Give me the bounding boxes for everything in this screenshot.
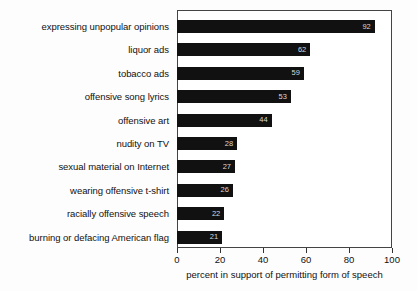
bar: 28: [177, 137, 237, 150]
bars-layer: 92625953442827262221: [177, 10, 392, 248]
x-tick-label: 40: [258, 254, 269, 265]
bar-value-label: 22: [212, 210, 220, 218]
category-label: tobacco ads: [0, 68, 169, 79]
x-tick-label: 60: [301, 254, 312, 265]
x-tick-label: 0: [174, 254, 179, 265]
x-tick-mark: [220, 248, 221, 253]
bar: 27: [177, 160, 235, 173]
bar-value-label: 59: [292, 69, 300, 77]
x-tick-mark: [263, 248, 264, 253]
x-tick-mark: [392, 248, 393, 253]
x-tick-mark: [306, 248, 307, 253]
bar-value-label: 53: [279, 93, 287, 101]
bar-value-label: 28: [225, 140, 233, 148]
bar-value-label: 21: [210, 233, 218, 241]
x-tick-label: 20: [215, 254, 226, 265]
x-tick-label: 80: [344, 254, 355, 265]
category-label: offensive art: [0, 115, 169, 126]
category-label: burning or defacing American flag: [0, 232, 169, 243]
category-axis-labels: expressing unpopular opinionsliquor adst…: [0, 10, 173, 248]
bar: 53: [177, 90, 291, 103]
bar: 26: [177, 184, 233, 197]
bar-value-label: 44: [259, 116, 267, 124]
bar-chart: expressing unpopular opinionsliquor adst…: [0, 0, 417, 291]
category-label: offensive song lyrics: [0, 91, 169, 102]
x-tick-mark: [177, 248, 178, 253]
category-label: expressing unpopular opinions: [0, 21, 169, 32]
bar-value-label: 27: [223, 163, 231, 171]
category-label: liquor ads: [0, 44, 169, 55]
bar-value-label: 92: [362, 23, 370, 31]
x-tick-mark: [349, 248, 350, 253]
bar: 59: [177, 67, 304, 80]
x-axis: 020406080100: [177, 248, 392, 270]
bar: 22: [177, 207, 224, 220]
category-label: nudity on TV: [0, 138, 169, 149]
category-label: wearing offensive t-shirt: [0, 185, 169, 196]
bar: 92: [177, 20, 375, 33]
category-label: sexual material on Internet: [0, 161, 169, 172]
x-axis-title: percent in support of permitting form of…: [177, 269, 392, 281]
bar-value-label: 26: [221, 186, 229, 194]
bar: 21: [177, 231, 222, 244]
bar: 44: [177, 114, 272, 127]
bar: 62: [177, 43, 310, 56]
bar-value-label: 62: [298, 46, 306, 54]
category-label: racially offensive speech: [0, 208, 169, 219]
x-tick-label: 100: [384, 254, 400, 265]
